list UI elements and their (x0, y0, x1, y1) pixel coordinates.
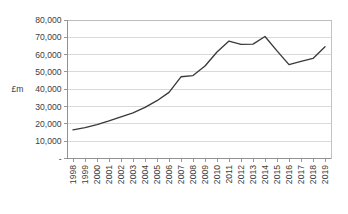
x-axis-tick-label: 1998 (68, 165, 78, 184)
x-axis-tick-label: 2011 (224, 165, 234, 184)
x-axis-tick-label: 2013 (248, 165, 258, 184)
x-axis-tick-label: 2008 (188, 165, 198, 184)
y-axis-title: £m (12, 84, 24, 94)
y-axis-tick-label: 10,000 (35, 136, 62, 146)
data-series-line (73, 36, 325, 129)
chart-canvas: 80,00070,00060,00050,00040,00030,00020,0… (0, 0, 348, 214)
x-axis-tick-label: 2003 (128, 165, 138, 184)
x-axis-tick-label: 2007 (176, 165, 186, 184)
y-axis-tick-label: 40,000 (35, 84, 62, 94)
x-axis-tick-label: 2009 (200, 165, 210, 184)
y-axis-tick-label: - (59, 154, 62, 164)
x-axis-tick-label: 2000 (92, 165, 102, 184)
x-axis-tick-label: 2005 (152, 165, 162, 184)
y-axis-tick-label: 30,000 (35, 102, 62, 112)
y-axis: 80,00070,00060,00050,00040,00030,00020,0… (35, 15, 67, 164)
x-axis-tick-label: 2010 (212, 165, 222, 184)
y-axis-tick-label: 80,000 (35, 15, 62, 25)
x-axis-tick-label: 2012 (236, 165, 246, 184)
x-axis-tick-label: 2002 (116, 165, 126, 184)
gridlines (67, 20, 331, 141)
x-axis-tick-label: 2016 (284, 165, 294, 184)
y-axis-tick-label: 70,000 (35, 32, 62, 42)
y-axis-tick-label: 50,000 (35, 67, 62, 77)
x-axis-tick-label: 2001 (104, 165, 114, 184)
y-axis-tick-label: 20,000 (35, 119, 62, 129)
x-axis-tick-label: 2006 (164, 165, 174, 184)
x-axis: 1998199920002001200220032004200520062007… (67, 159, 331, 185)
x-axis-tick-label: 2004 (140, 165, 150, 184)
x-axis-tick-label: 2018 (308, 165, 318, 184)
x-axis-tick-label: 2014 (260, 165, 270, 184)
x-axis-tick-label: 2015 (272, 165, 282, 184)
line-chart: 80,00070,00060,00050,00040,00030,00020,0… (0, 0, 348, 214)
x-axis-tick-label: 2019 (320, 165, 330, 184)
x-axis-tick-label: 2017 (296, 165, 306, 184)
x-axis-tick-label: 1999 (80, 165, 90, 184)
y-axis-tick-label: 60,000 (35, 50, 62, 60)
